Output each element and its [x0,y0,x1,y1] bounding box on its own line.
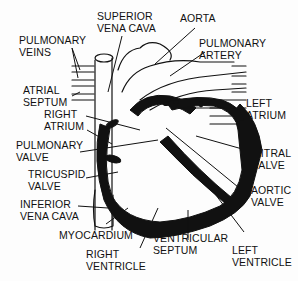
label-atrial-septum: ATRIAL SEPTUM [23,84,67,108]
label-superior-vena-cava: SUPERIOR VENA CAVA [97,10,156,34]
label-aortic-valve: AORTIC VALVE [251,184,291,208]
label-ventricular-septum: VENTRICULAR SEPTUM [153,232,228,256]
label-right-atrium: RIGHT ATRIUM [44,108,84,132]
label-left-atrium: LEFT ATRIUM [246,97,286,121]
label-inferior-vena-cava: INFERIOR VENA CAVA [20,198,79,222]
label-mitral-valve: MITRAL VALVE [252,147,291,171]
label-pulmonary-veins: PULMONARY VEINS [19,34,86,58]
label-left-ventricle: LEFT VENTRICLE [232,244,292,268]
label-tricuspid-valve: TRICUSPID VALVE [28,168,86,192]
label-right-ventricle: RIGHT VENTRICLE [86,248,146,272]
label-aorta: AORTA [180,12,216,24]
heart-diagram: SUPERIOR VENA CAVA AORTA PULMONARY VEINS… [0,0,298,281]
label-pulmonary-artery: PULMONARY ARTERY [199,37,266,61]
label-myocardium: MYOCARDIUM [59,229,133,241]
label-pulmonary-valve: PULMONARY VALVE [16,139,83,163]
